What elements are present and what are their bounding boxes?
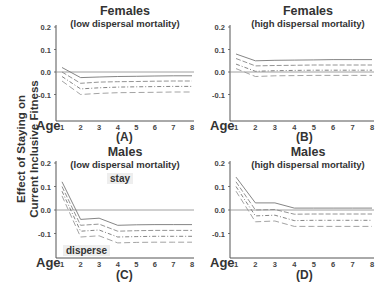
x-tick-label: 1 xyxy=(60,123,64,132)
x-tick-label: 5 xyxy=(312,123,316,132)
y-tick-label: 0.0 xyxy=(215,206,225,215)
chart-panel-a: 0.20.10.0-0.112345678 xyxy=(38,23,194,132)
x-tick-label: 1 xyxy=(234,123,238,132)
y-tick-label: 0.0 xyxy=(215,68,225,77)
series-line-1 xyxy=(236,177,372,208)
y-tick-label: 0.2 xyxy=(215,23,225,32)
x-tick-label: 2 xyxy=(253,123,257,132)
y-tick-label: 0.2 xyxy=(41,23,51,32)
x-tick-label: 4 xyxy=(292,123,297,132)
x-tick-label: 6 xyxy=(331,123,335,132)
x-tick-label: 7 xyxy=(350,123,354,132)
x-tick-label: 6 xyxy=(153,123,157,132)
y-tick-label: 0.1 xyxy=(41,46,51,55)
y-tick-label: -0.1 xyxy=(212,230,225,239)
series-line-1 xyxy=(62,182,192,226)
chart-panel-c: 0.20.10.0-0.112345678 xyxy=(38,159,194,269)
x-tick-label: 4 xyxy=(116,123,121,132)
x-tick-label: 1 xyxy=(60,260,64,269)
series-line-2 xyxy=(236,182,372,214)
y-tick-label: -0.1 xyxy=(38,230,51,239)
x-tick-label: 3 xyxy=(97,123,101,132)
y-tick-label: -0.1 xyxy=(38,91,51,100)
chart-panel-d: 0.20.10.0-0.112345678 xyxy=(212,159,374,269)
y-tick-label: 0.1 xyxy=(215,46,225,55)
x-tick-label: 5 xyxy=(134,260,138,269)
x-tick-label: 8 xyxy=(370,123,374,132)
y-tick-label: 0.2 xyxy=(215,159,225,168)
x-tick-label: 3 xyxy=(97,260,101,269)
x-tick-label: 4 xyxy=(292,260,297,269)
y-tick-label: 0.0 xyxy=(41,68,51,77)
y-tick-label: 0.1 xyxy=(215,183,225,192)
plot-area: 0.20.10.0-0.1123456780.20.10.0-0.1123456… xyxy=(0,0,376,291)
x-tick-label: 2 xyxy=(78,260,82,269)
series-line-1 xyxy=(62,68,192,78)
x-tick-label: 8 xyxy=(190,260,194,269)
x-tick-label: 8 xyxy=(370,260,374,269)
y-tick-label: 0.2 xyxy=(41,159,51,168)
x-tick-label: 2 xyxy=(78,123,82,132)
figure: Effect of Staying on Current Inclusive F… xyxy=(0,0,376,291)
series-line-3 xyxy=(62,77,192,89)
x-tick-label: 3 xyxy=(273,260,277,269)
x-tick-label: 6 xyxy=(153,260,157,269)
x-tick-label: 7 xyxy=(171,123,175,132)
x-tick-label: 7 xyxy=(171,260,175,269)
x-tick-label: 5 xyxy=(312,260,316,269)
series-line-4 xyxy=(236,69,372,77)
y-tick-label: 0.0 xyxy=(41,206,51,215)
series-line-3 xyxy=(236,187,372,221)
chart-panel-b: 0.20.10.0-0.112345678 xyxy=(212,23,374,132)
x-tick-label: 2 xyxy=(253,260,257,269)
x-tick-label: 8 xyxy=(190,123,194,132)
x-tick-label: 6 xyxy=(331,260,335,269)
y-tick-label: 0.1 xyxy=(41,183,51,192)
series-line-4 xyxy=(236,191,372,226)
x-tick-label: 1 xyxy=(234,260,238,269)
x-tick-label: 3 xyxy=(273,123,277,132)
x-tick-label: 7 xyxy=(350,260,354,269)
series-line-1 xyxy=(236,54,372,61)
x-tick-label: 4 xyxy=(116,260,121,269)
y-tick-label: -0.1 xyxy=(212,91,225,100)
x-tick-label: 5 xyxy=(134,123,138,132)
